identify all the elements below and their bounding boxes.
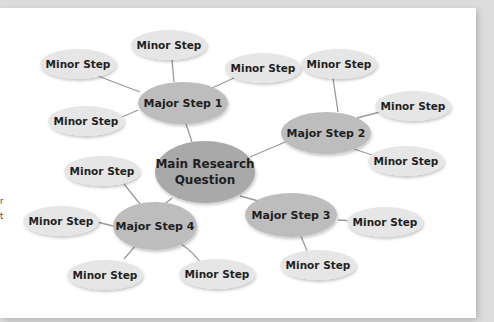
- svg-text:Major Step 3: Major Step 3: [252, 209, 331, 222]
- minor-step-node: Minor Step: [67, 260, 143, 290]
- main-research-question-node: Main Research Question: [155, 141, 255, 203]
- svg-text:Minor Step: Minor Step: [231, 62, 296, 74]
- svg-text:Minor Step: Minor Step: [70, 165, 135, 177]
- svg-text:Minor Step: Minor Step: [307, 58, 372, 70]
- minor-step-node: Minor Step: [375, 91, 451, 121]
- major-step-4-node: Major Step 4: [113, 202, 197, 250]
- minor-step-node: Minor Step: [347, 207, 423, 237]
- mind-map: Minor Step Minor Step Minor Step Minor S…: [0, 0, 494, 322]
- svg-text:Minor Step: Minor Step: [286, 259, 351, 271]
- svg-text:Minor Step: Minor Step: [54, 115, 119, 127]
- svg-text:Major Step 2: Major Step 2: [287, 127, 366, 140]
- minor-step-node: Minor Step: [40, 49, 116, 79]
- svg-text:Question: Question: [175, 173, 236, 187]
- major-step-3-node: Major Step 3: [245, 193, 337, 237]
- minor-step-node: Minor Step: [368, 146, 444, 176]
- minor-step-node: Minor Step: [225, 53, 301, 83]
- svg-text:Minor Step: Minor Step: [185, 268, 250, 280]
- major-step-2-node: Major Step 2: [281, 112, 371, 154]
- minor-step-node: Minor Step: [48, 106, 124, 136]
- svg-text:Minor Step: Minor Step: [46, 58, 111, 70]
- svg-text:Minor Step: Minor Step: [29, 215, 94, 227]
- svg-text:Minor Step: Minor Step: [353, 216, 418, 228]
- minor-step-node: Minor Step: [131, 30, 207, 60]
- svg-text:Main Research: Main Research: [155, 157, 254, 171]
- svg-text:Major Step 4: Major Step 4: [116, 220, 195, 233]
- minor-step-node: Minor Step: [64, 156, 140, 186]
- svg-text:Minor Step: Minor Step: [137, 39, 202, 51]
- minor-step-node: Minor Step: [301, 49, 377, 79]
- minor-step-node: Minor Step: [23, 206, 99, 236]
- svg-text:Minor Step: Minor Step: [374, 155, 439, 167]
- svg-text:Minor Step: Minor Step: [73, 269, 138, 281]
- minor-step-node: Minor Step: [280, 250, 356, 280]
- minor-step-node: Minor Step: [179, 259, 255, 289]
- svg-text:Major Step 1: Major Step 1: [144, 97, 223, 110]
- svg-text:Minor Step: Minor Step: [381, 100, 446, 112]
- major-step-1-node: Major Step 1: [138, 82, 228, 124]
